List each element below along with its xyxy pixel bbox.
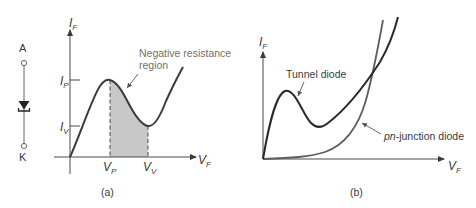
- cathode-label: K: [19, 151, 27, 163]
- y-axis-label-a: IF: [69, 16, 78, 32]
- x-axis-label-b: VF: [448, 159, 462, 175]
- x-axis-label-a: VF: [198, 153, 212, 169]
- pn-junction-curve: [263, 20, 383, 159]
- tunnel-diode-symbol-icon: A K: [19, 42, 30, 163]
- figure-canvas: A K IF VF IP IV VP VV Negative resistanc…: [0, 0, 476, 208]
- vp-label: VP: [103, 160, 117, 176]
- tunnel-diode-label: Tunnel diode: [286, 68, 346, 80]
- tunnel-arrow: [298, 82, 304, 96]
- pn-arrow: [362, 123, 381, 134]
- caption-a: (a): [101, 186, 114, 198]
- y-axis-label-b: IF: [259, 35, 268, 51]
- iv-label: IV: [60, 120, 69, 136]
- pn-junction-label: pn-junction diode: [383, 130, 464, 142]
- negative-resistance-label-line2: region: [139, 59, 168, 71]
- vv-label: VV: [143, 160, 157, 176]
- anode-label: A: [19, 42, 27, 54]
- caption-b: (b): [350, 186, 363, 198]
- negative-resistance-shade: [110, 80, 148, 157]
- tunnel-diode-curve: [263, 17, 398, 159]
- negative-resistance-label-line1: Negative resistance: [139, 47, 231, 59]
- ip-label: IP: [60, 74, 69, 90]
- panel-a: A K IF VF IP IV VP VV Negative resistanc…: [19, 16, 232, 198]
- annotation-arrow-a: [127, 74, 138, 88]
- panel-b: IF VF Tunnel diode pn-junction diode (b): [259, 17, 464, 198]
